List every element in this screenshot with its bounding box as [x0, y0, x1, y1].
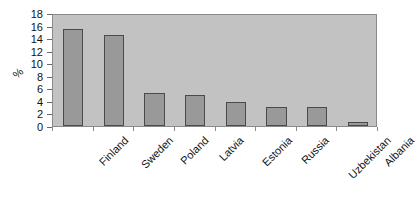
- x-category-label: Sweden: [139, 134, 176, 171]
- x-category-label: Poland: [178, 134, 211, 167]
- x-category-label: Latvia: [217, 134, 246, 163]
- x-category-label: Estonia: [260, 134, 294, 168]
- x-category-label: Finland: [97, 134, 131, 168]
- x-category-label: Russia: [299, 134, 331, 166]
